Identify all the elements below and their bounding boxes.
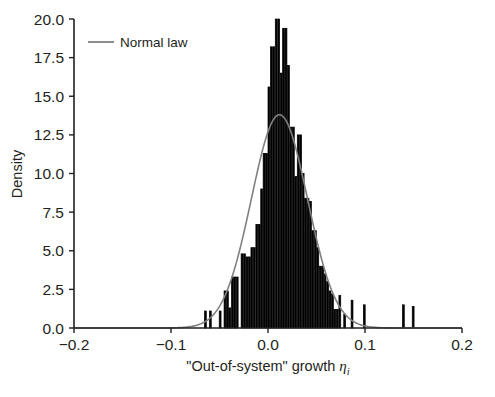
histogram-bars (204, 19, 414, 328)
y-axis-tick-label: 15.0 (34, 88, 65, 105)
legend: Normal law (88, 35, 188, 50)
y-axis-tick-label: 10.0 (34, 165, 65, 182)
histogram-bar (314, 231, 316, 328)
histogram-bar (204, 311, 206, 328)
histogram-bar (302, 174, 304, 329)
x-axis-tick-label: 0.2 (451, 336, 473, 353)
histogram-bar (285, 28, 287, 328)
y-axis-tick-label: 17.5 (34, 49, 64, 66)
y-axis-tick-label: 12.5 (34, 126, 64, 143)
x-axis-tick-label: −0.1 (156, 336, 187, 353)
histogram-bar (310, 201, 312, 328)
eta-subscript: i (347, 366, 350, 377)
histogram-bar (339, 296, 341, 328)
histogram-bar (278, 19, 280, 328)
y-axis-tick-label: 7.5 (42, 204, 64, 221)
eta-symbol: η (339, 358, 346, 374)
histogram-bar (266, 153, 268, 328)
y-axis-title: Density (9, 149, 25, 198)
histogram-bar (234, 277, 236, 328)
histogram-bar (312, 231, 314, 328)
y-axis-ticks: 0.02.55.07.510.012.515.017.520.0 (34, 11, 74, 337)
y-axis-tick-label: 2.5 (42, 281, 64, 298)
histogram-bar (231, 277, 233, 328)
histogram-bar (334, 309, 336, 328)
histogram-bar (317, 248, 319, 328)
histogram-bar (229, 308, 231, 328)
histogram-bar (283, 28, 285, 328)
histogram-bar (241, 254, 243, 328)
y-axis-tick-label: 20.0 (34, 11, 65, 28)
x-axis-tick-label: 0.1 (354, 336, 376, 353)
histogram-bar (363, 305, 365, 328)
histogram-bar (305, 198, 307, 328)
histogram-bar (263, 153, 265, 328)
density-histogram-chart: 0.02.55.07.510.012.515.017.520.0 −0.2−0.… (0, 0, 495, 397)
histogram-bar (244, 254, 246, 328)
histogram-bar (246, 257, 248, 328)
y-axis-tick-label: 5.0 (42, 242, 64, 259)
histogram-bar (322, 266, 324, 328)
histogram-bar (290, 127, 292, 328)
histogram-bar (226, 291, 228, 328)
histogram-bar (412, 306, 414, 328)
histogram-bar (329, 291, 331, 328)
histogram-bar (292, 127, 294, 328)
histogram-bar (336, 309, 338, 328)
histogram-bar (402, 305, 404, 328)
histogram-bar (297, 135, 299, 328)
histogram-bar (270, 47, 272, 328)
histogram-bar (236, 277, 238, 328)
histogram-bar (256, 224, 258, 328)
histogram-bar (332, 294, 334, 328)
histogram-bar (273, 47, 275, 328)
histogram-bar (324, 274, 326, 328)
histogram-bar (351, 300, 353, 328)
x-axis-tick-label: −0.2 (59, 336, 90, 353)
x-axis-title-text: "Out-of-system" growth (186, 358, 339, 374)
x-axis-title: "Out-of-system" growth ηi (186, 358, 349, 377)
histogram-bar (251, 248, 253, 328)
histogram-bar (209, 311, 211, 328)
histogram-bar (253, 248, 255, 328)
histogram-bar (307, 198, 309, 328)
histogram-bar (249, 257, 251, 328)
chart-figure: 0.02.55.07.510.012.515.017.520.0 −0.2−0.… (0, 0, 495, 397)
histogram-bar (268, 87, 270, 328)
x-axis-tick-label: 0.0 (257, 336, 279, 353)
histogram-bar (258, 224, 260, 328)
histogram-bar (288, 65, 290, 328)
histogram-bar (295, 177, 297, 328)
histogram-bar (280, 73, 282, 328)
histogram-bar (261, 189, 263, 328)
legend-label-normal-law: Normal law (120, 35, 188, 50)
histogram-bar (344, 314, 346, 328)
y-axis-tick-label: 0.0 (42, 320, 64, 337)
histogram-bar (327, 282, 329, 328)
histogram-bar (275, 19, 277, 328)
x-axis-ticks: −0.2−0.10.00.10.2 (59, 328, 473, 353)
histogram-bar (319, 266, 321, 328)
histogram-bar (219, 311, 221, 328)
